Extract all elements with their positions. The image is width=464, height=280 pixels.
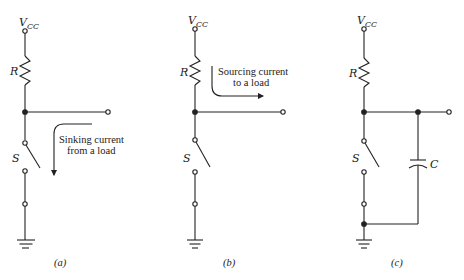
vcc-terminal xyxy=(362,27,366,31)
caption-a: (a) xyxy=(54,257,67,269)
circuit-a: VCC R S Sinking current from a load (a) xyxy=(9,16,124,269)
switch-terminal-top xyxy=(362,139,366,143)
output-terminal xyxy=(281,110,285,114)
vcc-terminal xyxy=(23,29,27,33)
annotation-line-1: Sinking current xyxy=(59,134,124,145)
ground-icon xyxy=(187,240,203,248)
vcc-label: VCC xyxy=(188,14,208,29)
circuit-c: VCC R S C (c) xyxy=(348,14,451,269)
vcc-terminal xyxy=(193,27,197,31)
terminal xyxy=(193,202,197,206)
terminal xyxy=(23,202,27,206)
terminal xyxy=(362,202,366,206)
resistor-icon xyxy=(20,56,30,85)
switch-terminal-bottom xyxy=(362,170,366,174)
circuit-diagram: VCC R S Sinking current from a load (a) … xyxy=(0,0,464,280)
switch-icon xyxy=(26,145,40,168)
ground-icon xyxy=(17,240,35,248)
circuit-b: VCC R S Sourcing current to a load (b) xyxy=(179,14,288,269)
capacitor-label: C xyxy=(430,158,439,171)
switch-terminal-top xyxy=(23,141,27,145)
output-terminal xyxy=(447,110,451,114)
resistor-icon xyxy=(359,58,369,87)
resistor-icon xyxy=(190,56,200,85)
vcc-label: VCC xyxy=(19,16,39,31)
switch-terminal-bottom xyxy=(193,170,197,174)
resistor-label: R xyxy=(348,67,357,80)
resistor-label: R xyxy=(9,65,18,78)
switch-icon xyxy=(196,142,210,167)
switch-label: S xyxy=(352,152,360,165)
annotation-line-1: Sourcing current xyxy=(218,66,288,77)
annotation-line-2: to a load xyxy=(233,77,270,88)
switch-terminal-top xyxy=(193,138,197,142)
vcc-label: VCC xyxy=(357,14,377,29)
switch-label: S xyxy=(12,152,20,165)
output-terminal xyxy=(106,110,110,114)
annotation-line-2: from a load xyxy=(67,145,116,156)
switch-label: S xyxy=(183,152,191,165)
caption-c: (c) xyxy=(391,257,403,269)
ground-icon xyxy=(356,240,372,248)
resistor-label: R xyxy=(179,66,188,79)
switch-terminal-bottom xyxy=(23,169,27,173)
caption-b: (b) xyxy=(223,257,236,269)
switch-icon xyxy=(365,143,379,167)
